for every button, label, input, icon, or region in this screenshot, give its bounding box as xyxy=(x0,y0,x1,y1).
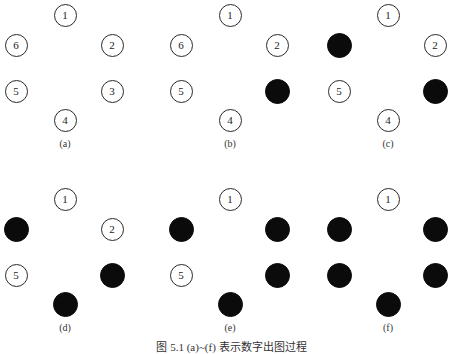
node-1: 1 xyxy=(219,4,242,27)
node-1: 1 xyxy=(377,4,400,27)
node-5: 5 xyxy=(5,264,28,287)
node-6: 6 xyxy=(170,34,193,57)
subfigure-label: (c) xyxy=(382,138,393,149)
node-2: 2 xyxy=(424,34,447,57)
node-5: 5 xyxy=(170,80,193,103)
node-5: 5 xyxy=(328,80,351,103)
filled-node-3 xyxy=(100,263,125,288)
subfigure-b: 16254(b) xyxy=(165,0,305,160)
subfigure-label: (f) xyxy=(383,322,393,333)
subfigure-c: 1254(c) xyxy=(323,0,463,160)
node-5: 5 xyxy=(5,80,28,103)
filled-node-4 xyxy=(218,292,243,317)
filled-node-2 xyxy=(265,217,290,242)
subfigure-label: (b) xyxy=(224,138,236,149)
filled-node-4 xyxy=(53,292,78,317)
node-2: 2 xyxy=(266,34,289,57)
node-3: 3 xyxy=(101,80,124,103)
filled-node-6 xyxy=(327,217,352,242)
filled-node-3 xyxy=(265,79,290,104)
node-1: 1 xyxy=(54,4,77,27)
node-4: 4 xyxy=(377,109,400,132)
filled-node-4 xyxy=(376,292,401,317)
node-2: 2 xyxy=(101,218,124,241)
filled-node-3 xyxy=(423,79,448,104)
subfigure-label: (a) xyxy=(59,138,70,149)
node-5: 5 xyxy=(170,264,193,287)
figure-caption: 图 5.1 (a)~(f) 表示数字出图过程 xyxy=(0,338,463,354)
node-4: 4 xyxy=(219,109,242,132)
subfigure-label: (e) xyxy=(224,322,235,333)
node-4: 4 xyxy=(54,109,77,132)
filled-node-2 xyxy=(423,217,448,242)
filled-node-6 xyxy=(169,217,194,242)
subfigure-a: 162534(a) xyxy=(0,0,140,160)
node-2: 2 xyxy=(101,34,124,57)
node-1: 1 xyxy=(377,188,400,211)
subfigure-e: 15(e) xyxy=(165,184,305,344)
node-1: 1 xyxy=(219,188,242,211)
subfigure-d: 125(d) xyxy=(0,184,140,344)
filled-node-6 xyxy=(327,33,352,58)
node-6: 6 xyxy=(5,34,28,57)
node-1: 1 xyxy=(54,188,77,211)
filled-node-5 xyxy=(327,263,352,288)
subfigure-label: (d) xyxy=(59,322,71,333)
filled-node-6 xyxy=(4,217,29,242)
filled-node-3 xyxy=(423,263,448,288)
filled-node-3 xyxy=(265,263,290,288)
subfigure-f: 1(f) xyxy=(323,184,463,344)
